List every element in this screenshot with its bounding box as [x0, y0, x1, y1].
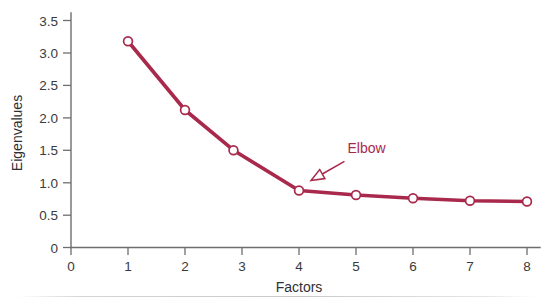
x-tick-label-3: 3 — [238, 259, 246, 274]
x-tick-label-0: 0 — [67, 259, 75, 274]
y-tick-label-0: 0 — [50, 241, 58, 256]
series-markers — [124, 37, 532, 206]
y-axis: 3.5 3.0 2.5 2.0 1.5 1.0 0.5 0 Eigenvalue… — [9, 13, 71, 256]
x-axis-title: Factors — [276, 279, 323, 295]
series-eigenvalues — [124, 37, 532, 206]
y-axis-title: Eigenvalues — [9, 95, 25, 171]
series-line — [128, 41, 527, 201]
chart-canvas: 3.5 3.0 2.5 2.0 1.5 1.0 0.5 0 Eigenvalue… — [0, 0, 555, 305]
y-tick-label-1.0: 1.0 — [39, 176, 58, 191]
x-tick-label-8: 8 — [523, 259, 531, 274]
y-tick-label-3.0: 3.0 — [39, 46, 58, 61]
y-tick-label-3.5: 3.5 — [39, 14, 58, 29]
x-axis: 0 1 2 3 4 5 6 7 8 Factors — [67, 248, 540, 296]
y-axis-ticks — [63, 21, 71, 248]
x-tick-label-1: 1 — [124, 259, 132, 274]
x-tick-label-5: 5 — [352, 259, 360, 274]
data-point-marker — [466, 196, 475, 205]
elbow-leader-line — [322, 161, 344, 174]
y-tick-label-2.5: 2.5 — [39, 78, 58, 93]
data-point-marker — [181, 106, 190, 115]
x-tick-label-4: 4 — [295, 259, 303, 274]
x-tick-label-6: 6 — [409, 259, 417, 274]
footer-divider — [18, 296, 537, 297]
elbow-annotation: Elbow — [311, 140, 386, 180]
data-point-marker — [352, 191, 361, 200]
elbow-label: Elbow — [347, 140, 386, 156]
y-axis-tick-labels: 3.5 3.0 2.5 2.0 1.5 1.0 0.5 0 — [39, 14, 58, 256]
y-tick-label-1.5: 1.5 — [39, 143, 58, 158]
data-point-marker — [295, 186, 304, 195]
data-point-marker — [229, 146, 238, 155]
elbow-arrowhead-icon — [311, 169, 325, 180]
y-tick-label-2.0: 2.0 — [39, 111, 58, 126]
x-axis-ticks — [71, 248, 527, 256]
data-point-marker — [523, 197, 532, 206]
data-point-marker — [409, 194, 418, 203]
data-point-marker — [124, 37, 133, 46]
x-tick-label-2: 2 — [181, 259, 189, 274]
x-axis-tick-labels: 0 1 2 3 4 5 6 7 8 — [67, 259, 531, 274]
x-tick-label-7: 7 — [466, 259, 474, 274]
scree-plot-figure: 3.5 3.0 2.5 2.0 1.5 1.0 0.5 0 Eigenvalue… — [0, 0, 555, 305]
y-tick-label-0.5: 0.5 — [39, 208, 58, 223]
